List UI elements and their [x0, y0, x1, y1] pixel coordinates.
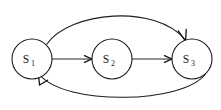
node-s3[interactable]: S 3 [172, 39, 212, 79]
node-s1-label-subscript: 1 [31, 59, 35, 68]
node-s3-label: S [183, 53, 189, 65]
state-diagram-svg: S 1 S 2 S 3 [0, 0, 221, 110]
node-s2[interactable]: S 2 [92, 39, 132, 79]
node-s1[interactable]: S 1 [12, 39, 52, 79]
state-diagram-canvas: S 1 S 2 S 3 [0, 0, 221, 110]
node-s2-label-subscript: 2 [111, 59, 115, 68]
edge-s1-to-s2-straight [52, 56, 92, 63]
node-s2-label: S [103, 53, 109, 65]
node-s1-label: S [23, 53, 29, 65]
edge-s3-to-s1-path [40, 74, 206, 97]
node-s3-label-subscript: 3 [191, 59, 195, 68]
arrowhead-into-s3-top [178, 29, 186, 41]
edge-s2-to-s3-straight [132, 56, 172, 63]
